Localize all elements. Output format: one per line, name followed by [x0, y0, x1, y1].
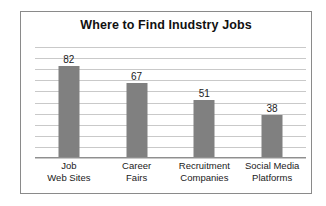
- plot-area: 82 67 51 38: [35, 47, 306, 158]
- bar-value-label: 82: [63, 54, 74, 65]
- x-axis-category-labels: Job Web Sites Career Fairs Recruitment C…: [35, 160, 306, 192]
- category-label-line: Fairs: [103, 172, 171, 184]
- bar-group: 67: [103, 46, 171, 157]
- category-label-line: Job: [35, 160, 103, 172]
- x-axis-line: [35, 157, 306, 158]
- category-label-line: Platforms: [238, 172, 306, 184]
- category-label: Recruitment Companies: [171, 160, 239, 184]
- category-label-line: Web Sites: [35, 172, 103, 184]
- bar-rect[interactable]: [194, 100, 215, 157]
- bar-rect[interactable]: [126, 83, 147, 157]
- category-label: Job Web Sites: [35, 160, 103, 184]
- bar-group: 82: [35, 46, 103, 157]
- bars-layer: 82 67 51 38: [35, 47, 306, 158]
- category-label: Social Media Platforms: [238, 160, 306, 184]
- category-label-line: Recruitment: [171, 160, 239, 172]
- category-label-line: Career: [103, 160, 171, 172]
- bar-rect[interactable]: [58, 66, 79, 157]
- bar-group: 38: [238, 46, 306, 157]
- category-label-line: Companies: [171, 172, 239, 184]
- bar-value-label: 67: [131, 71, 142, 82]
- category-label-line: Social Media: [238, 160, 306, 172]
- chart-title: Where to Find Inudstry Jobs: [21, 18, 311, 32]
- gridline: [35, 158, 306, 159]
- bar-group: 51: [171, 46, 239, 157]
- bar-chart-figure: Where to Find Inudstry Jobs 82 67 51 38: [20, 11, 312, 194]
- bar-value-label: 51: [199, 88, 210, 99]
- bar-value-label: 38: [267, 103, 278, 114]
- bar-rect[interactable]: [262, 115, 283, 157]
- category-label: Career Fairs: [103, 160, 171, 184]
